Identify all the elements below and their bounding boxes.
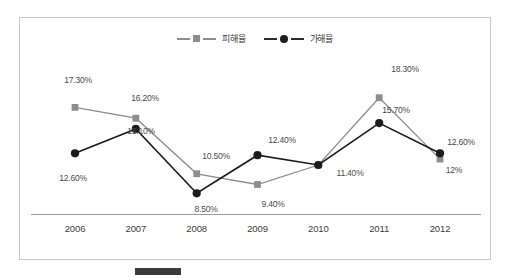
x-tick-label-2010: 2010 <box>308 223 329 234</box>
figure-caption-strip <box>0 268 509 278</box>
circle-marker-icon <box>436 149 444 157</box>
square-marker-icon <box>193 170 200 177</box>
data-point-label: 10.50% <box>202 151 230 161</box>
data-point-label: 12.60% <box>59 173 87 183</box>
data-point-label: 12.40% <box>268 135 296 145</box>
data-point-label: 12% <box>446 165 462 175</box>
data-point-label: 9.40% <box>261 199 284 209</box>
x-tick-label-2009: 2009 <box>247 223 268 234</box>
circle-marker-icon <box>314 161 322 169</box>
circle-marker-icon <box>193 189 201 197</box>
square-marker-icon <box>132 115 139 122</box>
data-point-label: 11.40% <box>337 168 364 178</box>
x-tick-label-2007: 2007 <box>125 223 146 234</box>
circle-marker-icon <box>253 151 261 159</box>
circle-marker-icon <box>71 149 79 157</box>
square-marker-icon <box>376 94 383 101</box>
x-tick-label-2006: 2006 <box>65 223 86 234</box>
caption-swatch-icon <box>135 268 181 275</box>
data-point-label: 8.50% <box>194 204 217 214</box>
square-marker-icon <box>72 104 79 111</box>
chart-frame: 피해율 가해율 17.30%16.20%12.60%15.10%10.50%8.… <box>19 17 491 260</box>
figure-caption <box>135 268 186 275</box>
square-marker-icon <box>254 181 261 188</box>
data-point-label: 12.60% <box>447 137 475 147</box>
circle-marker-icon <box>375 119 383 127</box>
data-point-label: 15.70% <box>382 105 410 115</box>
data-point-label: 17.30% <box>64 75 92 85</box>
x-axis-line <box>31 214 481 215</box>
data-point-label: 18.30% <box>391 64 419 74</box>
x-tick-label-2011: 2011 <box>369 223 389 234</box>
data-point-label: 15.10% <box>127 126 155 136</box>
x-axis-tick-labels: 2006200720082009201020112012 <box>20 223 492 243</box>
data-point-label: 16.20% <box>131 93 159 103</box>
x-tick-label-2012: 2012 <box>430 223 451 234</box>
x-tick-label-2008: 2008 <box>186 223 207 234</box>
